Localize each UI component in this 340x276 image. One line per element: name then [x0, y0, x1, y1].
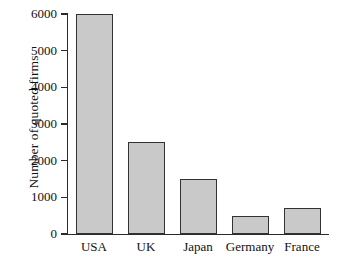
- y-tick: 1000: [61, 197, 67, 198]
- y-tick-label: 3000: [31, 116, 61, 132]
- y-tick-label: 2000: [31, 153, 61, 169]
- bar: [180, 179, 217, 234]
- y-tick-mark: [61, 50, 67, 51]
- y-tick-label: 4000: [31, 79, 61, 95]
- y-tick-label: 5000: [31, 43, 61, 59]
- bar: [128, 142, 165, 234]
- y-tick-mark: [61, 197, 67, 198]
- y-tick-mark: [61, 87, 67, 88]
- bar: [76, 14, 113, 234]
- y-tick-mark: [61, 233, 67, 234]
- x-axis-label: Japan: [172, 239, 224, 255]
- y-tick: 2000: [61, 160, 67, 161]
- x-axis-label: USA: [68, 239, 120, 255]
- x-axis-label: Germany: [224, 239, 276, 255]
- bar: [232, 216, 269, 234]
- y-tick-label: 0: [51, 226, 62, 242]
- x-axis-label: France: [276, 239, 328, 255]
- y-tick: 5000: [61, 50, 67, 51]
- y-tick: 0: [61, 233, 67, 234]
- bar-chart: Number of quoted firms 01000200030004000…: [0, 0, 340, 276]
- y-tick: 3000: [61, 123, 67, 124]
- y-tick-mark: [61, 160, 67, 161]
- plot-area: [68, 14, 328, 234]
- y-tick: 4000: [61, 87, 67, 88]
- y-tick: 6000: [61, 13, 67, 14]
- bar: [284, 208, 321, 234]
- y-tick-label: 1000: [31, 189, 61, 205]
- x-axis-label: UK: [120, 239, 172, 255]
- y-tick-mark: [61, 13, 67, 14]
- x-axis-line: [67, 234, 329, 235]
- y-tick-label: 6000: [31, 6, 61, 22]
- y-tick-mark: [61, 123, 67, 124]
